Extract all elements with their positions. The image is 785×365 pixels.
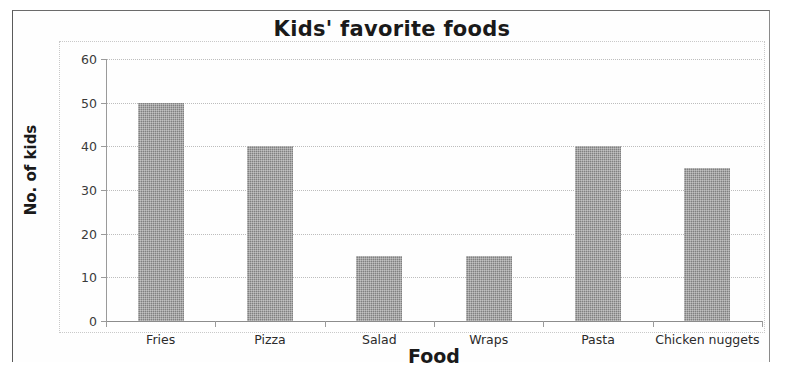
gridline-30 — [106, 190, 762, 191]
plot-area: 0102030405060 FriesPizzaSaladWrapsPastaC… — [106, 59, 762, 321]
gridline-10 — [106, 277, 762, 278]
bar-pasta[interactable] — [575, 146, 621, 321]
y-tick-mark-10 — [101, 277, 107, 278]
bar-chicken-nuggets[interactable] — [684, 168, 730, 321]
bar-salad[interactable] — [356, 256, 402, 322]
chart-title: Kids' favorite foods — [13, 17, 771, 41]
category-tick-1 — [215, 321, 216, 327]
y-axis-title: No. of kids — [22, 100, 40, 240]
category-tick-3 — [434, 321, 435, 327]
category-tick-end — [762, 321, 763, 327]
y-tick-label-20: 20 — [81, 226, 97, 241]
category-tick-2 — [325, 321, 326, 327]
category-tick-4 — [543, 321, 544, 327]
gridline-20 — [106, 234, 762, 235]
bar-fries[interactable] — [138, 103, 184, 321]
y-tick-mark-40 — [101, 146, 107, 147]
y-tick-mark-20 — [101, 234, 107, 235]
category-tick-0 — [106, 321, 107, 327]
y-tick-mark-30 — [101, 190, 107, 191]
gridline-50 — [106, 103, 762, 104]
y-tick-mark-60 — [101, 59, 107, 60]
bar-wraps[interactable] — [466, 256, 512, 322]
y-tick-label-60: 60 — [81, 52, 97, 67]
y-tick-label-40: 40 — [81, 139, 97, 154]
y-tick-label-30: 30 — [81, 183, 97, 198]
gridline-60 — [106, 59, 762, 60]
y-tick-label-10: 10 — [81, 270, 97, 285]
x-axis-title: Food — [106, 345, 762, 365]
gridline-40 — [106, 146, 762, 147]
category-tick-5 — [653, 321, 654, 327]
bar-pizza[interactable] — [247, 146, 293, 321]
y-tick-mark-50 — [101, 103, 107, 104]
y-tick-label-50: 50 — [81, 95, 97, 110]
y-tick-label-0: 0 — [89, 314, 97, 329]
chart-frame: Kids' favorite foods No. of kids 0102030… — [12, 10, 770, 362]
